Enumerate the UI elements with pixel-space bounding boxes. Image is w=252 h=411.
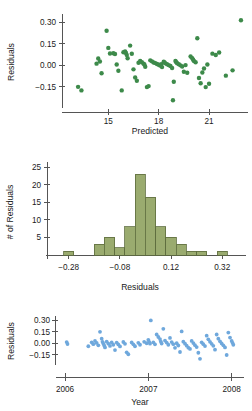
chart-residuals-vs-year: −0.150.000.150.30 200620072008 Residuals… bbox=[0, 295, 252, 411]
scatter-points bbox=[65, 319, 235, 361]
scatter-point bbox=[131, 67, 135, 71]
scatter-point bbox=[98, 330, 102, 334]
scatter-point bbox=[172, 80, 176, 84]
histogram-bar bbox=[217, 251, 227, 255]
scatter-point bbox=[128, 43, 132, 47]
scatter-point bbox=[168, 336, 172, 340]
figure-page: −0.150.000.150.30 151821 Residuals Predi… bbox=[0, 0, 252, 411]
histogram-bar bbox=[156, 227, 166, 255]
x-tick-label: −0.28 bbox=[58, 263, 79, 272]
scatter-point bbox=[123, 342, 127, 346]
scatter-point bbox=[111, 343, 115, 347]
x-tick-label: 2006 bbox=[56, 385, 75, 394]
x-tick-label: 21 bbox=[205, 117, 215, 126]
scatter-point bbox=[86, 344, 90, 348]
scatter-point bbox=[170, 66, 174, 70]
x-axis-tick-labels: −0.28−0.080.120.32 bbox=[46, 255, 246, 272]
scatter-point bbox=[120, 88, 124, 92]
scatter-point bbox=[231, 343, 235, 347]
scatter-point bbox=[196, 351, 200, 355]
x-tick-label: 15 bbox=[104, 117, 114, 126]
y-axis-tick-labels: −0.150.000.150.30 bbox=[29, 316, 58, 365]
scatter-point bbox=[153, 342, 157, 346]
scatter-point bbox=[183, 63, 187, 67]
scatter-point bbox=[176, 344, 180, 348]
scatter-point bbox=[104, 29, 108, 33]
scatter-point bbox=[202, 66, 206, 70]
scatter-point bbox=[166, 343, 170, 347]
y-tick-label: 20 bbox=[32, 181, 42, 190]
y-tick-label: 0.15 bbox=[34, 328, 50, 337]
scatter-point bbox=[198, 357, 202, 361]
histogram-bar bbox=[197, 251, 207, 255]
scatter-point bbox=[99, 71, 103, 75]
y-tick-label: 0.30 bbox=[34, 316, 50, 325]
histogram-bar bbox=[166, 237, 176, 255]
histogram-bars bbox=[64, 174, 228, 255]
x-tick-label: 0.12 bbox=[163, 263, 179, 272]
x-tick-label: 0.32 bbox=[214, 263, 230, 272]
scatter-point bbox=[160, 65, 164, 69]
y-tick-label: 0.30 bbox=[40, 18, 56, 27]
scatter-point bbox=[217, 50, 221, 54]
x-tick-label: 2008 bbox=[223, 385, 242, 394]
y-axis-title: Residuals bbox=[6, 322, 16, 360]
scatter-point bbox=[103, 346, 107, 350]
scatter-point bbox=[198, 81, 202, 85]
scatter-point bbox=[79, 88, 83, 92]
x-axis-tick-labels: 151821 bbox=[62, 109, 248, 126]
scatter-point bbox=[197, 76, 201, 80]
histogram-bar bbox=[135, 174, 145, 255]
scatter-point bbox=[200, 70, 204, 74]
scatter-year-svg: −0.150.000.150.30 200620072008 Residuals… bbox=[0, 295, 252, 411]
histogram-svg: 510152025 −0.28−0.080.120.32 # of Residu… bbox=[0, 140, 252, 295]
scatter-point bbox=[160, 342, 164, 346]
scatter-point bbox=[226, 331, 230, 335]
scatter-point bbox=[205, 334, 209, 338]
scatter-point bbox=[96, 343, 100, 347]
y-axis-tick-labels: −0.150.000.150.30 bbox=[35, 14, 65, 108]
scatter-point bbox=[178, 350, 182, 354]
y-tick-label: 0.15 bbox=[40, 40, 56, 49]
scatter-point bbox=[203, 344, 207, 348]
x-tick-label: −0.08 bbox=[109, 263, 130, 272]
scatter-point bbox=[115, 62, 119, 66]
scatter-point bbox=[213, 348, 217, 352]
scatter-point bbox=[188, 347, 192, 351]
x-tick-label: 18 bbox=[154, 117, 164, 126]
histogram-bar bbox=[104, 237, 114, 255]
scatter-point bbox=[66, 342, 70, 346]
scatter-point bbox=[148, 342, 152, 346]
scatter-point bbox=[173, 346, 177, 350]
chart-histogram-of-residuals: 510152025 −0.28−0.080.120.32 # of Residu… bbox=[0, 140, 252, 295]
scatter-point bbox=[138, 343, 142, 347]
scatter-point bbox=[225, 353, 229, 357]
scatter-point bbox=[161, 327, 165, 331]
histogram-bar bbox=[94, 244, 104, 255]
scatter-point bbox=[195, 345, 199, 349]
y-tick-label: 10 bbox=[32, 216, 42, 225]
y-axis-title: # of Residuals bbox=[5, 185, 15, 239]
chart-residuals-vs-predicted: −0.150.000.150.30 151821 Residuals Predi… bbox=[0, 0, 252, 140]
histogram-bar bbox=[145, 197, 155, 255]
scatter-point bbox=[223, 346, 227, 350]
scatter-point bbox=[228, 336, 232, 340]
scatter-point bbox=[98, 59, 102, 63]
scatter-point bbox=[118, 345, 122, 349]
scatter-point bbox=[149, 319, 153, 323]
scatter-point bbox=[113, 52, 117, 56]
scatter-point bbox=[113, 348, 117, 352]
x-axis-tick-labels: 200620072008 bbox=[56, 373, 244, 394]
scatter-point bbox=[125, 56, 129, 60]
scatter-point bbox=[180, 330, 184, 334]
y-tick-label: 25 bbox=[32, 163, 42, 172]
histogram-bar bbox=[176, 244, 186, 255]
y-axis-title: Residuals bbox=[6, 43, 16, 81]
x-tick-label: 2007 bbox=[139, 385, 158, 394]
scatter-point bbox=[204, 85, 208, 89]
x-axis-title: Residuals bbox=[121, 282, 159, 292]
scatter-point bbox=[126, 352, 130, 356]
histogram-bar bbox=[186, 251, 196, 255]
scatter-predicted-svg: −0.150.000.150.30 151821 Residuals Predi… bbox=[0, 0, 252, 140]
scatter-point bbox=[195, 36, 199, 40]
